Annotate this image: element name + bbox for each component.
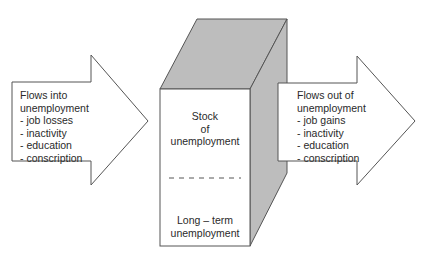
outflow-title-line2: unemployment <box>297 102 366 115</box>
stock-line1: Stock <box>160 110 250 123</box>
outflow-item-job-gains: - job gains <box>297 114 366 127</box>
stock-line2: of <box>160 123 250 136</box>
stock-label: Stock of unemployment <box>160 110 250 148</box>
long-term-line2: unemployment <box>160 227 250 240</box>
inflow-item-conscription: - conscription <box>20 152 89 165</box>
outflow-item-inactivity: - inactivity <box>297 127 366 140</box>
inflow-title-line2: unemployment <box>20 102 89 115</box>
long-term-line1: Long – term <box>160 214 250 227</box>
outflow-title-line1: Flows out of <box>297 89 366 102</box>
long-term-label: Long – term unemployment <box>160 214 250 239</box>
stock-line3: unemployment <box>160 135 250 148</box>
outflow-item-conscription: - conscription <box>297 152 366 165</box>
inflow-label: Flows into unemployment - job losses - i… <box>20 89 89 165</box>
outflow-item-education: - education <box>297 139 366 152</box>
inflow-item-education: - education <box>20 139 89 152</box>
inflow-item-job-losses: - job losses <box>20 114 89 127</box>
inflow-title-line1: Flows into <box>20 89 89 102</box>
outflow-label: Flows out of unemployment - job gains - … <box>297 89 366 165</box>
inflow-item-inactivity: - inactivity <box>20 127 89 140</box>
